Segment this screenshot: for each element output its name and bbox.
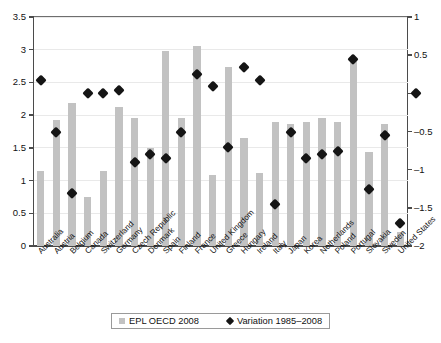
y-tick-label-left: 2.5 [0, 77, 26, 87]
data-point-marker [145, 149, 156, 160]
square-marker-icon [119, 318, 125, 324]
chart-legend: EPL OECD 2008 Variation 1985–2008 [111, 313, 330, 329]
data-point-marker [364, 183, 375, 194]
data-point-marker [207, 80, 218, 91]
legend-label-epl: EPL OECD 2008 [129, 316, 199, 326]
data-point-marker [67, 187, 78, 198]
legend-item-variation-1985-2008: Variation 1985–2008 [227, 316, 322, 326]
data-point-marker [176, 126, 187, 137]
data-point-marker [114, 84, 125, 95]
data-point-marker [270, 199, 281, 210]
data-point-marker [35, 74, 46, 85]
data-point-marker [160, 153, 171, 164]
y-tick-label-left: 2 [0, 110, 26, 120]
data-point-marker [98, 88, 109, 99]
y-tick-label-right: –1.5 [414, 203, 441, 213]
chart-container: 00.511.522.533.5 –2–1.5–1–0.500.51 Austr… [0, 0, 441, 343]
data-point-marker [192, 69, 203, 80]
data-point-marker [285, 126, 296, 137]
y-tick-label-right: –0.5 [414, 127, 441, 137]
data-point-marker [301, 153, 312, 164]
data-point-marker [223, 141, 234, 152]
y-tick-label-left: 3 [0, 45, 26, 55]
data-point-marker [379, 130, 390, 141]
data-point-marker [51, 126, 62, 137]
y-tick-label-left: 1.5 [0, 143, 26, 153]
legend-item-epl-oecd-2008: EPL OECD 2008 [119, 316, 199, 326]
data-point-marker [348, 54, 359, 65]
data-point-marker [395, 218, 406, 229]
legend-label-variation: Variation 1985–2008 [237, 316, 322, 326]
y-tick-label-left: 1 [0, 176, 26, 186]
diamond-marker-icon [226, 317, 234, 325]
data-point-marker [332, 145, 343, 156]
data-point-marker [82, 88, 93, 99]
data-point-marker [317, 149, 328, 160]
data-point-marker [239, 61, 250, 72]
y-tick-label-right: 0.5 [414, 50, 441, 60]
y-tick-label-right: –1 [414, 165, 441, 175]
data-point-marker [129, 157, 140, 168]
x-axis-category-labels: AustraliaAustriaBelgiumCanadaSwitzerland… [0, 246, 441, 308]
y-tick-label-left: 0.5 [0, 208, 26, 218]
data-point-marker [254, 75, 265, 86]
y-tick-label-right: 1 [414, 12, 441, 22]
y-tick-label-left: 3.5 [0, 12, 26, 22]
scatter-series-variation-1985-2008 [33, 17, 408, 246]
